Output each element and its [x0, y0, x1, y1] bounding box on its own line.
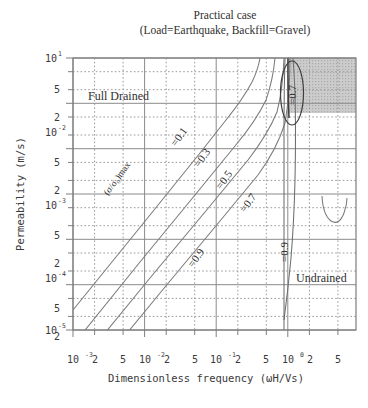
ellipse-label-0.7: =0.7 — [286, 85, 298, 105]
x-tick-label: 5 — [120, 354, 126, 365]
x-tick-label: 10 -1 — [210, 351, 236, 365]
y-tick-label: 10 1 — [45, 50, 62, 64]
svg-text:10: 10 — [45, 325, 57, 336]
svg-text:10: 10 — [210, 354, 222, 365]
svg-text:-3: -3 — [58, 197, 66, 205]
y-tick-marks — [66, 58, 73, 330]
full-drained-label: Full Drained — [88, 89, 149, 103]
chart-title: Practical case — [194, 9, 257, 21]
x-tick-label: 5 — [192, 354, 198, 365]
x-tick-label: 5 — [335, 354, 341, 365]
x-tick-label: 2 — [92, 354, 98, 365]
x-tick-marks — [73, 330, 338, 337]
y-tick-label: 5 — [54, 84, 60, 95]
y-tick-label: 10 -3 — [45, 197, 66, 211]
svg-text:10: 10 — [45, 200, 57, 211]
svg-text:1: 1 — [58, 50, 62, 58]
y-tick-label: 5 — [54, 303, 60, 314]
svg-text:-2: -2 — [58, 124, 66, 132]
y-tick-label: 2 — [54, 112, 60, 123]
svg-text:10: 10 — [282, 354, 294, 365]
y-tick-label: 5 — [54, 230, 60, 241]
contour-label-0.9: =0.9 — [278, 242, 290, 262]
svg-text:-4: -4 — [58, 270, 66, 278]
y-tick-label: 10 -5 — [45, 322, 66, 336]
y-tick-labels: 10 1 5 2 10 -2 5 2 10 -3 5 2 10 — [45, 50, 66, 342]
svg-text:10: 10 — [45, 53, 57, 64]
x-tick-label: 2 — [235, 354, 241, 365]
y-tick-label: 10 -2 — [45, 124, 66, 138]
y-tick-label: 2 — [54, 258, 60, 269]
x-tick-label: 10 -2 — [139, 351, 165, 365]
svg-text:0: 0 — [300, 351, 304, 359]
x-tick-labels: 10 -3 2 5 10 -2 2 5 10 -1 2 5 10 — [67, 351, 341, 365]
y-axis: 10 1 5 2 10 -2 5 2 10 -3 5 2 10 — [14, 50, 73, 342]
y-axis-title: Permeability (m/s) — [14, 137, 26, 251]
x-tick-label: 10 -3 — [67, 351, 93, 365]
x-axis-title: Dimensionless frequency (ωH/Vs) — [108, 372, 304, 384]
x-axis: 10 -3 2 5 10 -2 2 5 10 -1 2 5 10 — [67, 330, 341, 384]
x-tick-label: 5 — [263, 354, 269, 365]
y-tick-label: 10 -4 — [45, 270, 66, 284]
undrained-label: Undrained — [296, 271, 347, 285]
x-tick-label: 10 0 — [282, 351, 304, 365]
svg-text:10: 10 — [45, 273, 57, 284]
svg-text:-5: -5 — [58, 322, 66, 330]
permeability-frequency-chart: Practical case (Load=Earthquake, Backfil… — [0, 0, 368, 408]
practical-case-shaded-region — [289, 58, 356, 113]
y-tick-label: 5 — [54, 157, 60, 168]
chart-svg: Practical case (Load=Earthquake, Backfil… — [0, 0, 368, 408]
x-tick-label: 2 — [164, 354, 170, 365]
svg-text:10: 10 — [45, 127, 57, 138]
x-tick-label: 2 — [307, 354, 313, 365]
chart-subtitle: (Load=Earthquake, Backfill=Gravel) — [140, 24, 311, 37]
y-tick-label: 2 — [54, 185, 60, 196]
svg-text:10: 10 — [67, 354, 79, 365]
svg-text:10: 10 — [139, 354, 151, 365]
